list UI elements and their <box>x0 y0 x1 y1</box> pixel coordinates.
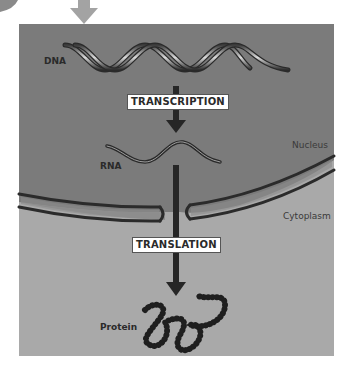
rna-label: RNA <box>100 161 121 171</box>
central-dogma-diagram: DNA RNA Protein TRANSCRIPTION TRANSLATIO… <box>0 0 352 377</box>
transcription-label-box: TRANSCRIPTION <box>127 94 229 110</box>
dna-label: DNA <box>44 56 66 66</box>
protein-label: Protein <box>100 322 137 332</box>
cytoplasm-label: Cytoplasm <box>283 211 331 221</box>
translation-label-box: TRANSLATION <box>132 237 221 253</box>
top-input-arrow-icon <box>70 0 98 24</box>
nucleus-label: Nucleus <box>292 140 328 150</box>
partial-circle-decoration <box>0 0 18 12</box>
